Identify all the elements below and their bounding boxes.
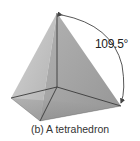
tetrahedron-figure: 109.5° (b) A tetrahedron [0, 0, 140, 141]
tetrahedron-drawing [0, 0, 140, 141]
figure-caption: (b) A tetrahedron [0, 123, 140, 135]
angle-label: 109.5° [95, 37, 128, 51]
